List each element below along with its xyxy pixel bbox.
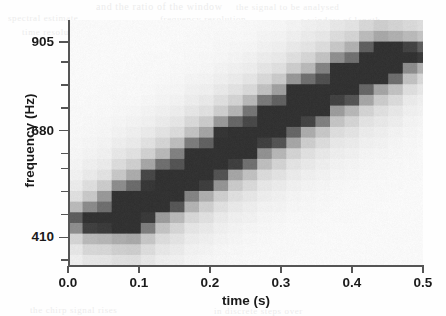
y-axis-minor-tick — [61, 168, 68, 170]
y-axis-minor-tick — [61, 107, 68, 109]
x-axis-tick-label: 0.0 — [43, 275, 93, 290]
x-axis-tick — [351, 266, 353, 273]
y-axis-minor-tick — [61, 191, 68, 193]
plot-area — [68, 20, 423, 265]
y-axis-minor-tick — [61, 84, 68, 86]
y-axis-major-tick — [59, 130, 68, 132]
y-axis-minor-tick — [61, 214, 68, 216]
x-axis-tick-label: 0.4 — [327, 275, 377, 290]
x-axis-tick — [138, 266, 140, 273]
y-axis-minor-tick — [61, 153, 68, 155]
scan-bleed-line: and the ratio of the window — [96, 1, 222, 12]
y-axis-spine — [68, 20, 70, 266]
x-axis-tick-label: 0.3 — [256, 275, 306, 290]
x-axis-tick-label: 0.5 — [398, 275, 446, 290]
y-axis-title: frequency (Hz) — [22, 61, 37, 221]
x-axis-tick — [209, 266, 211, 273]
y-axis-tick-label: 905 — [2, 34, 54, 49]
spectrogram-figure: and the ratio of the windowthe signal to… — [0, 0, 446, 316]
x-axis-tick — [422, 266, 424, 273]
y-axis-minor-tick — [61, 61, 68, 63]
y-axis-tick-label: 410 — [2, 229, 54, 244]
y-axis-minor-tick — [61, 259, 68, 261]
y-axis-major-tick — [59, 237, 68, 239]
x-axis-tick — [67, 266, 69, 273]
x-axis-title: time (s) — [68, 293, 424, 308]
scan-bleed-line: the signal to be analysed — [236, 2, 339, 12]
x-axis-tick-label: 0.1 — [114, 275, 164, 290]
y-axis-major-tick — [59, 41, 68, 43]
x-axis-tick-label: 0.2 — [185, 275, 235, 290]
x-axis-spine — [68, 265, 424, 267]
spectrogram-heatmap — [68, 20, 423, 265]
x-axis-tick — [280, 266, 282, 273]
